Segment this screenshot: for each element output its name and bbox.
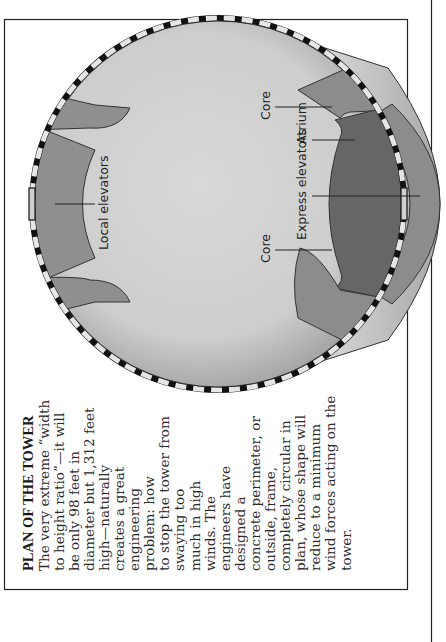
page-canvas: Local elevators Core Core Express elevat… [0,0,446,642]
caption-line: problem: how [141,476,157,571]
caption-line: to height ratio”—it will [51,413,67,571]
perimeter-window-right [401,188,407,220]
caption-line: high—naturally [96,464,112,571]
caption-line: swaying too [171,489,187,571]
caption-line: to stop the tower from [156,416,172,571]
caption-line: engineering [126,488,142,571]
perimeter-window-left [29,188,35,220]
caption-line: wind forces acting on the [322,396,338,571]
caption-line: much in high [187,480,203,571]
caption-line: winds. The [202,496,218,571]
caption-line: tower. [338,528,354,571]
label-atrium: Atrium [294,102,309,144]
label-express-elevators: Express elevators [294,129,309,240]
caption-block: PLAN OF THE TOWER The very extreme “widt… [20,396,354,571]
caption-line: diameter but 1,312 feet [81,407,97,571]
caption-line: designed a [232,496,248,571]
caption-line: engineers have [217,466,233,571]
caption-line: The very extreme “width [36,400,52,571]
caption-line: completely circular in [277,420,293,571]
caption-line: outside, frame, [262,467,278,571]
caption-line: concrete perimeter, or [247,416,263,571]
caption-line: plan, whose shape will [292,415,308,571]
caption-line: reduce to a minimum [307,424,323,571]
label-core-top: Core [258,91,273,120]
caption-title: PLAN OF THE TOWER [20,415,36,571]
label-local-elevators: Local elevators [96,156,111,250]
label-core-bottom: Core [258,234,273,263]
caption-line: be only 98 feet in [66,451,82,571]
caption-line: creates a great [111,466,127,571]
